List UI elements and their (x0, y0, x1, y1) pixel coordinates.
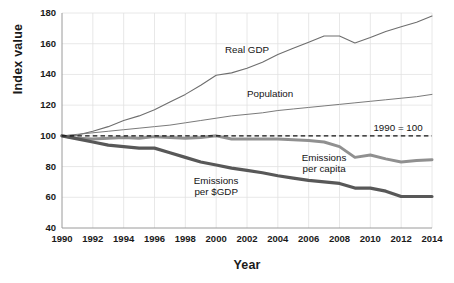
series-annotation-label: Emissionsper capita (279, 153, 369, 174)
reference-line-label: 1990 = 100 (373, 123, 422, 134)
annotation-line-1: Emissions (279, 153, 369, 164)
annotation-line-2: per capita (279, 164, 369, 175)
x-tick-label: 2014 (412, 233, 452, 244)
y-tick-label: 120 (24, 99, 56, 110)
y-tick-label: 160 (24, 38, 56, 49)
y-tick-label: 40 (24, 222, 56, 233)
x-axis-title: Year (62, 258, 432, 272)
y-tick-label: 80 (24, 161, 56, 172)
annotation-line-2: per $GDP (171, 187, 261, 198)
series-annotation-label: Emissionsper $GDP (171, 176, 261, 197)
y-tick-label: 180 (24, 7, 56, 18)
y-tick-label: 100 (24, 130, 56, 141)
y-tick-label: 60 (24, 191, 56, 202)
annotation-line-1: Emissions (171, 176, 261, 187)
y-tick-label: 140 (24, 68, 56, 79)
series-annotation-label: Population (225, 89, 315, 100)
annotation-line-1: Real GDP (202, 45, 292, 56)
y-axis-title: Index value (11, 0, 25, 129)
chart-container: Index value Year 406080100120140160180 1… (0, 0, 454, 283)
annotation-line-1: Population (225, 89, 315, 100)
series-annotation-label: Real GDP (202, 45, 292, 56)
